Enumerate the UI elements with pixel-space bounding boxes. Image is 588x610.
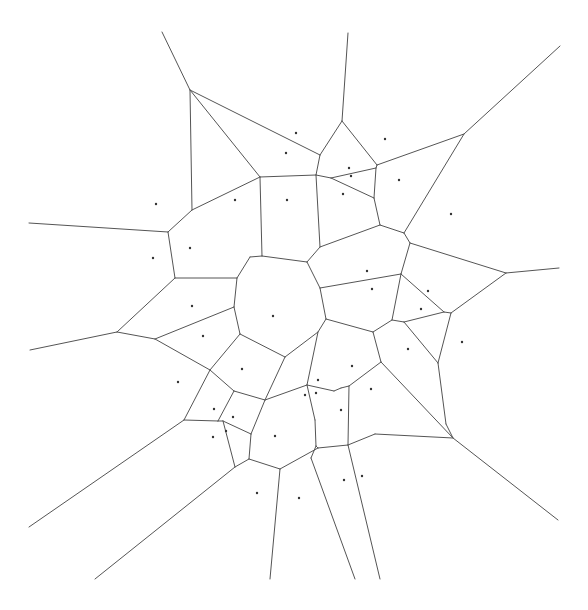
voronoi-site-point [348,167,350,169]
voronoi-edge [316,175,320,247]
voronoi-edge [331,168,376,178]
voronoi-edge [192,177,260,210]
voronoi-edge [349,362,381,386]
voronoi-edge [249,459,280,469]
voronoi-site-point [315,392,317,394]
voronoi-edge [307,332,318,385]
voronoi-site-point [366,270,368,272]
voronoi-edge [374,198,380,225]
voronoi-edge [373,320,392,332]
voronoi-edge [404,134,464,233]
voronoi-edge [190,90,192,210]
voronoi-site-point [351,365,353,367]
voronoi-site-point [450,213,452,215]
voronoi-site-point [189,247,191,249]
voronoi-edge [380,225,404,233]
voronoi-edge [218,391,234,421]
voronoi-edge [342,33,348,121]
voronoi-site-point [350,175,352,177]
voronoi-site-point [155,203,157,205]
voronoi-edge [444,312,451,313]
voronoi-edge [249,434,251,459]
voronoi-edge [401,274,444,312]
voronoi-edge [404,312,444,322]
voronoi-site-point [343,479,345,481]
voronoi-site-point [461,341,463,343]
voronoi-edge [392,320,404,322]
voronoi-edges [29,32,560,579]
voronoi-edge [318,445,348,448]
voronoi-edge [155,307,234,339]
voronoi-edge [326,319,373,332]
voronoi-site-point [427,290,429,292]
voronoi-edge [250,256,262,257]
voronoi-edge [404,233,410,243]
voronoi-edge [29,223,168,232]
voronoi-edge [316,175,331,178]
voronoi-edge [223,421,251,434]
voronoi-edge [320,274,401,288]
voronoi-edge [315,420,316,446]
voronoi-edge [377,134,464,165]
voronoi-edge [451,273,506,313]
voronoi-edge [270,469,280,579]
voronoi-site-point [177,381,179,383]
voronoi-edge [334,388,341,391]
voronoi-site-point [191,305,193,307]
voronoi-site-point [212,436,214,438]
voronoi-edge [260,175,316,177]
voronoi-edge [392,274,401,320]
voronoi-edge [307,385,334,391]
voronoi-edge [235,459,249,467]
voronoi-edge [404,322,438,363]
voronoi-site-point [298,497,300,499]
voronoi-edge [438,313,451,363]
voronoi-edge [29,420,184,527]
voronoi-edge [184,370,210,420]
voronoi-edge [438,363,446,424]
voronoi-edge [162,32,190,90]
voronoi-edge [117,278,175,332]
voronoi-edge [401,243,410,274]
voronoi-site-point [407,348,409,350]
voronoi-edge [251,400,265,434]
voronoi-site-point [370,388,372,390]
voronoi-edge [506,268,559,273]
voronoi-edge [373,332,381,362]
voronoi-edge [285,332,318,357]
voronoi-edge [307,262,320,288]
voronoi-site-point [295,132,297,134]
voronoi-edge [190,90,320,155]
voronoi-edge [320,225,380,247]
voronoi-edge [280,448,318,469]
voronoi-edge [341,386,349,388]
voronoi-diagram [0,0,588,610]
voronoi-site-point [384,138,386,140]
voronoi-site-point [241,368,243,370]
voronoi-site-point [398,179,400,181]
voronoi-edge [307,247,320,262]
voronoi-edge [331,178,374,198]
voronoi-edge [223,421,235,467]
voronoi-site-point [274,435,276,437]
voronoi-edge [234,391,265,400]
voronoi-edge [316,155,320,175]
voronoi-edge [210,370,234,391]
voronoi-edge [320,288,326,319]
voronoi-edge [410,243,506,273]
voronoi-edge [260,177,262,256]
voronoi-edge [237,257,250,278]
voronoi-edge [95,467,235,579]
voronoi-edge [190,90,260,177]
voronoi-site-point [317,379,319,381]
voronoi-edge [117,332,155,339]
voronoi-edge [375,434,453,438]
voronoi-site-point [225,430,227,432]
voronoi-edge [168,210,192,232]
voronoi-edge [168,232,175,278]
voronoi-site-point [371,288,373,290]
voronoi-edge [234,307,240,334]
voronoi-edge [320,121,342,155]
voronoi-edge [210,334,240,370]
voronoi-edge [318,319,326,332]
